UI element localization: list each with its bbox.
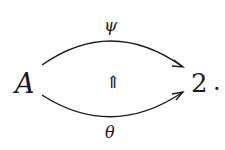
- trailing-period: .: [213, 70, 221, 94]
- label-psi: ψ: [104, 17, 117, 34]
- two-cell-arrow-icon: ⇑: [106, 74, 120, 91]
- arrow-theta: [42, 92, 183, 117]
- arrow-psi: [42, 41, 183, 67]
- object-2: 2: [191, 70, 208, 96]
- object-A: A: [15, 70, 35, 97]
- label-theta: θ: [105, 125, 115, 141]
